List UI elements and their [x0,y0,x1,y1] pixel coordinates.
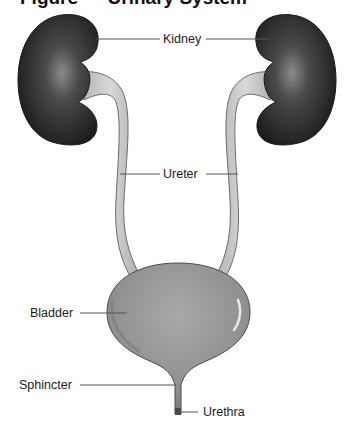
right-kidney [256,15,336,145]
bladder-label: Bladder [30,306,73,320]
left-kidney [18,15,98,145]
sphincter-label: Sphincter [19,378,72,392]
bladder [107,263,250,415]
urinary-system-diagram [0,0,354,431]
urethra-opening [175,408,181,415]
kidney-label: Kidney [163,32,201,46]
urethra-label: Urethra [203,405,245,419]
ureter-label: Ureter [163,167,198,181]
